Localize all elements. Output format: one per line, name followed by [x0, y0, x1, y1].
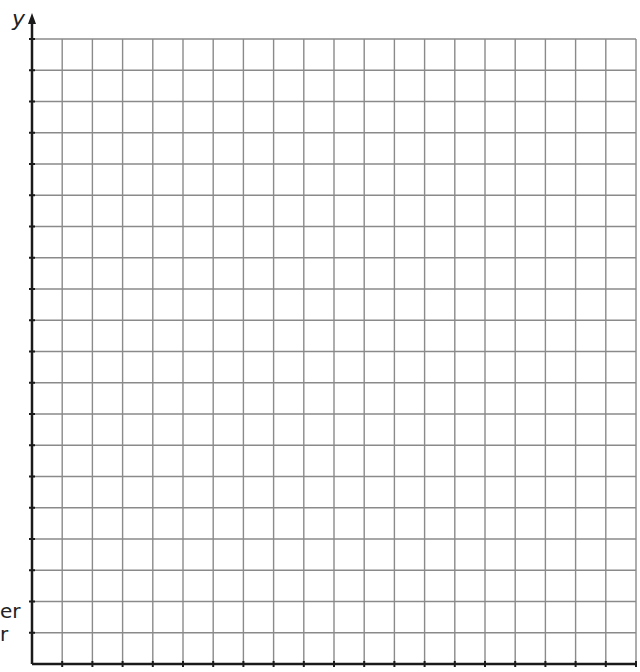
- coordinate-grid-diagram: y er r: [0, 0, 640, 672]
- clipped-label-fragment-1: er: [0, 601, 21, 621]
- grid-canvas: [0, 0, 640, 672]
- y-axis-arrow-icon: [28, 13, 36, 24]
- clipped-label-fragment-2: r: [0, 624, 8, 644]
- y-axis-label: y: [12, 8, 25, 30]
